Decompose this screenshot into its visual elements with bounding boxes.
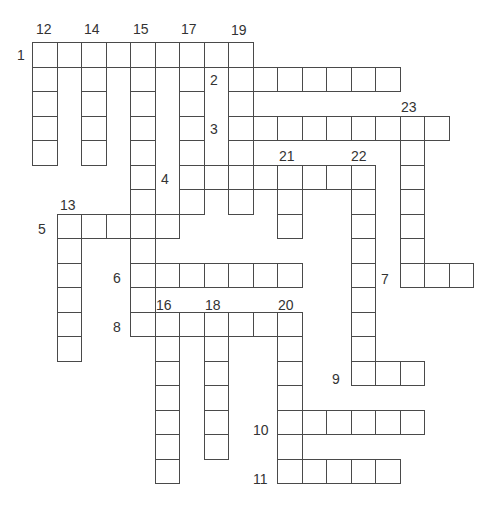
grid-cell[interactable]	[351, 263, 377, 289]
grid-cell[interactable]	[424, 263, 450, 289]
grid-cell[interactable]	[179, 140, 205, 166]
grid-cell[interactable]	[400, 263, 426, 289]
grid-cell[interactable]	[228, 42, 254, 68]
grid-cell[interactable]	[326, 165, 352, 191]
grid-cell[interactable]	[81, 116, 107, 142]
grid-cell[interactable]	[253, 165, 279, 191]
grid-cell[interactable]	[57, 263, 83, 289]
grid-cell[interactable]	[302, 67, 328, 93]
grid-cell[interactable]	[351, 410, 377, 436]
grid-cell[interactable]	[277, 214, 303, 240]
grid-cell[interactable]	[204, 385, 230, 411]
grid-cell[interactable]	[155, 410, 181, 436]
grid-cell[interactable]	[155, 459, 181, 485]
grid-cell[interactable]	[277, 67, 303, 93]
grid-cell[interactable]	[326, 67, 352, 93]
grid-cell[interactable]	[130, 165, 156, 191]
grid-cell[interactable]	[228, 165, 254, 191]
grid-cell[interactable]	[351, 361, 377, 387]
grid-cell[interactable]	[57, 238, 83, 264]
grid-cell[interactable]	[130, 238, 156, 264]
grid-cell[interactable]	[351, 214, 377, 240]
grid-cell[interactable]	[400, 361, 426, 387]
grid-cell[interactable]	[326, 459, 352, 485]
grid-cell[interactable]	[277, 189, 303, 215]
grid-cell[interactable]	[32, 67, 58, 93]
grid-cell[interactable]	[57, 336, 83, 362]
grid-cell[interactable]	[228, 91, 254, 117]
grid-cell[interactable]	[155, 42, 181, 68]
grid-cell[interactable]	[400, 238, 426, 264]
grid-cell[interactable]	[277, 263, 303, 289]
grid-cell[interactable]	[277, 410, 303, 436]
grid-cell[interactable]	[253, 116, 279, 142]
grid-cell[interactable]	[204, 42, 230, 68]
grid-cell[interactable]	[155, 385, 181, 411]
grid-cell[interactable]	[375, 67, 401, 93]
grid-cell[interactable]	[351, 165, 377, 191]
grid-cell[interactable]	[400, 214, 426, 240]
grid-cell[interactable]	[228, 189, 254, 215]
grid-cell[interactable]	[130, 189, 156, 215]
grid-cell[interactable]	[351, 67, 377, 93]
grid-cell[interactable]	[32, 42, 58, 68]
grid-cell[interactable]	[179, 165, 205, 191]
grid-cell[interactable]	[204, 165, 230, 191]
grid-cell[interactable]	[130, 214, 156, 240]
grid-cell[interactable]	[130, 91, 156, 117]
grid-cell[interactable]	[228, 67, 254, 93]
grid-cell[interactable]	[277, 336, 303, 362]
grid-cell[interactable]	[57, 312, 83, 338]
grid-cell[interactable]	[326, 116, 352, 142]
grid-cell[interactable]	[302, 116, 328, 142]
grid-cell[interactable]	[32, 140, 58, 166]
grid-cell[interactable]	[155, 263, 181, 289]
grid-cell[interactable]	[179, 91, 205, 117]
grid-cell[interactable]	[302, 459, 328, 485]
grid-cell[interactable]	[277, 434, 303, 460]
grid-cell[interactable]	[155, 336, 181, 362]
grid-cell[interactable]	[106, 42, 132, 68]
grid-cell[interactable]	[326, 410, 352, 436]
grid-cell[interactable]	[277, 312, 303, 338]
grid-cell[interactable]	[204, 410, 230, 436]
grid-cell[interactable]	[400, 410, 426, 436]
grid-cell[interactable]	[179, 67, 205, 93]
grid-cell[interactable]	[204, 336, 230, 362]
grid-cell[interactable]	[155, 361, 181, 387]
grid-cell[interactable]	[130, 116, 156, 142]
grid-cell[interactable]	[228, 263, 254, 289]
grid-cell[interactable]	[375, 410, 401, 436]
grid-cell[interactable]	[375, 116, 401, 142]
grid-cell[interactable]	[57, 42, 83, 68]
grid-cell[interactable]	[57, 287, 83, 313]
grid-cell[interactable]	[277, 385, 303, 411]
grid-cell[interactable]	[130, 312, 156, 338]
grid-cell[interactable]	[204, 263, 230, 289]
grid-cell[interactable]	[400, 116, 426, 142]
grid-cell[interactable]	[302, 410, 328, 436]
grid-cell[interactable]	[32, 91, 58, 117]
grid-cell[interactable]	[204, 434, 230, 460]
grid-cell[interactable]	[277, 459, 303, 485]
grid-cell[interactable]	[130, 263, 156, 289]
grid-cell[interactable]	[351, 312, 377, 338]
grid-cell[interactable]	[57, 214, 83, 240]
grid-cell[interactable]	[204, 312, 230, 338]
grid-cell[interactable]	[179, 263, 205, 289]
grid-cell[interactable]	[204, 361, 230, 387]
grid-cell[interactable]	[179, 312, 205, 338]
grid-cell[interactable]	[351, 459, 377, 485]
grid-cell[interactable]	[351, 287, 377, 313]
grid-cell[interactable]	[351, 336, 377, 362]
grid-cell[interactable]	[449, 263, 475, 289]
grid-cell[interactable]	[424, 116, 450, 142]
grid-cell[interactable]	[351, 238, 377, 264]
grid-cell[interactable]	[351, 116, 377, 142]
grid-cell[interactable]	[32, 116, 58, 142]
grid-cell[interactable]	[81, 67, 107, 93]
grid-cell[interactable]	[130, 140, 156, 166]
grid-cell[interactable]	[277, 165, 303, 191]
grid-cell[interactable]	[375, 361, 401, 387]
grid-cell[interactable]	[130, 287, 156, 313]
